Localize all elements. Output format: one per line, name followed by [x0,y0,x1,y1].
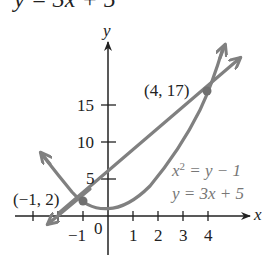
x-tick-label-3: 3 [179,227,188,244]
point-label-neg1-2: (−1, 2) [13,191,59,208]
legend-eq1-base: x [172,161,180,180]
y-tick-label-10: 10 [77,134,94,151]
point-label-4-17: (4, 17) [144,82,189,99]
intersection-point-neg1-2 [79,197,88,206]
y-axis-label: y [103,22,111,39]
x-tick-label-neg1: −1 [68,227,86,244]
y-tick-label-15: 15 [77,97,94,114]
graph-figure: y = 3x + 5 [0,0,270,255]
x-axis-label: x [254,206,262,223]
parabola-left-arrow [41,153,50,164]
legend-eq1-rest: = y − 1 [185,161,241,180]
x-tick-label-4: 4 [204,227,213,244]
x-tick-label-2: 2 [154,227,163,244]
x-tick-label-0: 0 [94,220,103,237]
graph-canvas [0,0,270,255]
legend-equation-line: y = 3x + 5 [172,185,244,202]
x-tick-label-1: 1 [129,227,138,244]
y-tick-label-5: 5 [86,170,95,187]
intersection-point-4-17 [203,87,212,96]
legend-equation-parabola: x2 = y − 1 [172,161,241,179]
